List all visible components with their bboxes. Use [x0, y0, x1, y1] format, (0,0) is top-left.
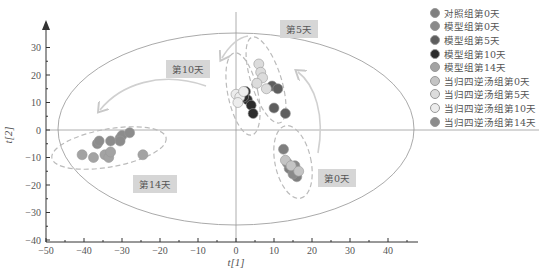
- svg-text:20: 20: [31, 70, 41, 81]
- legend-label: 当归四逆汤组第0天: [444, 74, 530, 88]
- arrow-day5-to-day10: [222, 36, 248, 58]
- legend-item: 当归四逆汤组第14天: [430, 115, 536, 129]
- svg-text:10: 10: [269, 245, 279, 256]
- legend-item: 模型组第0天: [430, 20, 536, 34]
- label-day10: 第10天: [166, 60, 210, 78]
- data-point: [94, 136, 104, 146]
- label-day5: 第5天: [280, 20, 318, 38]
- legend-label: 当归四逆汤组第5天: [444, 87, 530, 101]
- svg-text:−50: −50: [38, 245, 54, 256]
- data-point: [280, 109, 290, 119]
- svg-text:10: 10: [31, 97, 41, 108]
- arrow-day0-to-day5: [298, 72, 320, 153]
- svg-text:−40: −40: [76, 245, 92, 256]
- data-point: [248, 109, 258, 119]
- legend-label: 当归四逆汤组第14天: [444, 115, 536, 129]
- svg-text:0: 0: [234, 245, 239, 256]
- svg-text:−20: −20: [25, 180, 41, 191]
- data-point: [77, 150, 87, 160]
- legend-item: 当归四逆汤组第0天: [430, 74, 536, 88]
- legend-dot-icon: [430, 62, 440, 72]
- data-point: [125, 128, 135, 138]
- legend-label: 当归四逆汤组第10天: [444, 101, 536, 115]
- arrow-day10-to-day14: [100, 79, 206, 110]
- svg-text:−10: −10: [190, 245, 206, 256]
- legend-label: 模型组第10天: [444, 47, 506, 61]
- svg-text:−10: −10: [25, 152, 41, 163]
- data-point: [294, 166, 304, 176]
- data-point: [261, 84, 271, 94]
- y-axis-arrow-icon: [42, 20, 50, 30]
- legend-dot-icon: [430, 76, 440, 86]
- svg-text:30: 30: [31, 42, 41, 53]
- legend-dot-icon: [430, 103, 440, 113]
- svg-text:−40: −40: [25, 235, 41, 246]
- data-point: [106, 136, 116, 146]
- legend-label: 模型组第5天: [444, 33, 500, 47]
- legend-item: 当归四逆汤组第5天: [430, 88, 536, 102]
- label-day14: 第14天: [133, 175, 177, 193]
- x-axis-label: t[1]: [227, 256, 244, 268]
- svg-text:30: 30: [345, 245, 355, 256]
- svg-text:40: 40: [383, 245, 393, 256]
- legend-item: 模型组第10天: [430, 47, 536, 61]
- legend-item: 当归四逆汤组第10天: [430, 101, 536, 115]
- legend-label: 对照组第0天: [444, 6, 500, 20]
- svg-text:20: 20: [307, 245, 317, 256]
- legend-dot-icon: [430, 21, 440, 31]
- legend-item: 模型组第5天: [430, 33, 536, 47]
- x-ticks: −50−40−30−20−10010203040: [38, 238, 407, 256]
- legend-item: 对照组第0天: [430, 6, 536, 20]
- data-point: [269, 103, 279, 113]
- legend-dot-icon: [430, 49, 440, 59]
- y-axis-label: t[2]: [2, 126, 14, 143]
- legend-label: 模型组第14天: [444, 60, 506, 74]
- data-point: [279, 144, 289, 154]
- legend-dot-icon: [430, 8, 440, 18]
- data-point: [233, 98, 243, 108]
- data-point: [273, 84, 283, 94]
- legend-item: 模型组第14天: [430, 60, 536, 74]
- data-point: [252, 78, 262, 88]
- legend-dot-icon: [430, 89, 440, 99]
- label-day0: 第0天: [318, 169, 356, 187]
- data-point: [89, 153, 99, 163]
- svg-text:−30: −30: [25, 207, 41, 218]
- data-point: [138, 150, 148, 160]
- legend-dot-icon: [430, 35, 440, 45]
- svg-text:−20: −20: [152, 245, 168, 256]
- data-point: [106, 147, 116, 157]
- legend-dot-icon: [430, 117, 440, 127]
- svg-text:−30: −30: [114, 245, 130, 256]
- legend: 对照组第0天 模型组第0天 模型组第5天 模型组第10天 模型组第14天 当归四…: [430, 6, 536, 128]
- legend-label: 模型组第0天: [444, 19, 500, 33]
- svg-text:0: 0: [36, 125, 41, 136]
- data-point: [115, 136, 125, 146]
- data-point: [239, 87, 249, 97]
